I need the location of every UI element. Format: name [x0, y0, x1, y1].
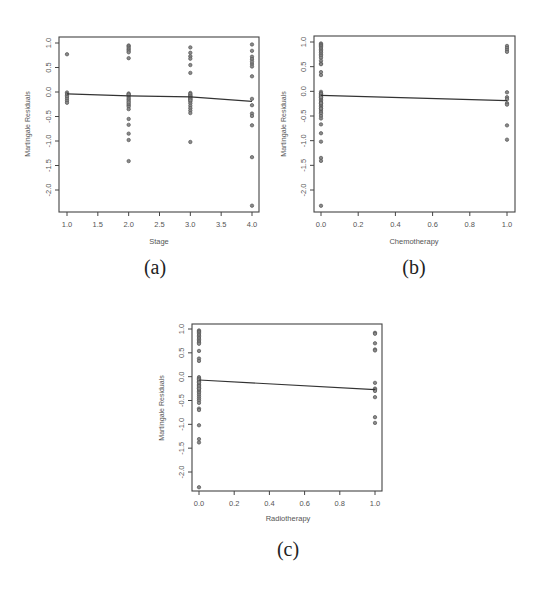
data-point [505, 124, 508, 127]
data-point [250, 49, 253, 52]
scatter-points [197, 329, 376, 489]
figure-svg: 1.01.52.02.53.03.54.01.00.50.0-0.5-1.0-1… [0, 0, 536, 590]
data-point [250, 204, 253, 207]
plot-frame [59, 37, 259, 212]
data-point [319, 132, 322, 135]
data-point [189, 99, 192, 102]
data-point [197, 441, 200, 444]
panel-caption: (b) [402, 256, 425, 279]
x-tick-label: 0.6 [427, 220, 437, 229]
data-point [250, 43, 253, 46]
x-tick-label: 1.5 [93, 220, 103, 229]
x-axis: 0.00.20.40.60.81.0 [316, 212, 512, 229]
x-axis: 0.00.20.40.60.81.0 [194, 491, 380, 508]
data-point [373, 342, 376, 345]
x-tick-label: 0.6 [299, 499, 309, 508]
data-point [319, 204, 322, 207]
y-axis-label: Martingale Residuals [24, 91, 32, 157]
x-tick-label: 0.8 [335, 499, 345, 508]
data-point [319, 73, 322, 76]
data-point [373, 415, 376, 418]
y-tick-label: 0.5 [299, 61, 308, 71]
y-tick-label: 0.0 [44, 87, 53, 97]
y-tick-label: 1.0 [177, 324, 186, 334]
data-point [250, 97, 253, 100]
plot-frame [192, 324, 382, 491]
data-point [505, 91, 508, 94]
data-point [127, 101, 130, 104]
data-point [189, 63, 192, 66]
y-tick-label: -1.0 [177, 418, 186, 431]
y-tick-label: -2.0 [44, 184, 53, 197]
y-tick-label: -1.0 [44, 135, 53, 148]
data-point [250, 124, 253, 127]
data-point [319, 140, 322, 143]
x-axis-label: Stage [149, 237, 169, 246]
x-tick-label: 1.0 [370, 499, 380, 508]
data-point [505, 138, 508, 141]
data-point [197, 387, 200, 390]
smoothed-fit-line [67, 94, 252, 101]
smoothed-fit-line [321, 95, 507, 100]
y-tick-label: -2.0 [177, 466, 186, 479]
scatter-points [65, 43, 253, 208]
x-tick-label: 3.5 [216, 220, 226, 229]
data-point [127, 107, 130, 110]
smoothed-fit-line [199, 380, 375, 390]
data-point [127, 132, 130, 135]
y-tick-label: -0.5 [299, 110, 308, 123]
x-tick-label: 0.8 [465, 220, 475, 229]
y-tick-label: 0.5 [44, 62, 53, 72]
data-point [373, 421, 376, 424]
data-point [505, 103, 508, 106]
x-tick-label: 1.0 [62, 220, 72, 229]
x-tick-label: 1.0 [502, 220, 512, 229]
x-tick-label: 4.0 [247, 220, 257, 229]
data-point [250, 75, 253, 78]
data-point [373, 395, 376, 398]
data-point [127, 56, 130, 59]
data-point [127, 159, 130, 162]
data-point [127, 123, 130, 126]
x-tick-label: 0.0 [316, 220, 326, 229]
x-tick-label: 0.4 [264, 499, 274, 508]
x-tick-label: 2.0 [123, 220, 133, 229]
y-axis: 1.00.50.0-0.5-1.0-1.5-2.0 [299, 37, 314, 197]
x-axis: 1.01.52.02.53.03.54.0 [62, 212, 257, 229]
data-point [250, 60, 253, 63]
data-point [319, 159, 322, 162]
panel-caption: (c) [277, 538, 299, 561]
data-point [373, 381, 376, 384]
data-point [65, 53, 68, 56]
data-point [319, 107, 322, 110]
y-tick-label: -1.5 [44, 159, 53, 172]
y-axis-label: Martingale Residuals [158, 375, 166, 441]
data-point [197, 437, 200, 440]
data-point [197, 401, 200, 404]
data-point [373, 349, 376, 352]
scatter-points [319, 42, 508, 208]
data-point [250, 155, 253, 158]
x-tick-label: 2.5 [154, 220, 164, 229]
data-point [373, 332, 376, 335]
y-tick-label: -0.5 [177, 394, 186, 407]
data-point [189, 71, 192, 74]
data-point [319, 123, 322, 126]
data-point [319, 96, 322, 99]
data-point [197, 486, 200, 489]
x-axis-label: Chemotherapy [389, 237, 438, 246]
data-point [250, 114, 253, 117]
y-axis: 1.00.50.0-0.5-1.0-1.5-2.0 [44, 38, 59, 197]
y-tick-label: 1.0 [44, 38, 53, 48]
chart-panel-radiotherapy: 0.00.20.40.60.81.01.00.50.0-0.5-1.0-1.5-… [158, 324, 382, 561]
y-tick-label: 0.0 [177, 371, 186, 381]
y-tick-label: -1.0 [299, 134, 308, 147]
x-tick-label: 0.4 [390, 220, 400, 229]
data-point [189, 51, 192, 54]
data-point [319, 117, 322, 120]
chart-panel-chemotherapy: 0.00.20.40.60.81.01.00.50.0-0.5-1.0-1.5-… [280, 36, 515, 279]
y-tick-label: -1.5 [177, 442, 186, 455]
y-tick-label: 1.0 [299, 37, 308, 47]
data-point [189, 111, 192, 114]
x-tick-label: 0.2 [229, 499, 239, 508]
